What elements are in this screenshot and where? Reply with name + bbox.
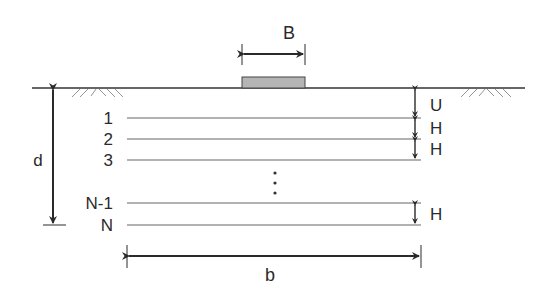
spacing-label-h3: H bbox=[430, 205, 442, 224]
ground-hatch-left bbox=[72, 89, 123, 97]
soil-layer-diagram: B 1 2 3 N-1 N d U H H H b bbox=[0, 0, 556, 291]
ellipsis-dots bbox=[273, 171, 276, 194]
width-label: b bbox=[265, 265, 275, 285]
spacing-label-h2: H bbox=[430, 140, 442, 159]
layer-label-n: N bbox=[101, 216, 113, 235]
ground-hatch-right bbox=[461, 89, 511, 97]
layer-label-2: 2 bbox=[104, 130, 113, 149]
spacing-label-u: U bbox=[430, 96, 442, 115]
depth-label: d bbox=[33, 151, 42, 170]
footing-width-label: B bbox=[283, 23, 295, 43]
footing-width-dimension bbox=[242, 44, 305, 65]
layer-label-n-1: N-1 bbox=[86, 194, 113, 213]
footing bbox=[242, 77, 305, 88]
layer-label-3: 3 bbox=[104, 151, 113, 170]
depth-dimension bbox=[43, 90, 66, 225]
layer-lines bbox=[127, 118, 421, 225]
layer-label-1: 1 bbox=[104, 109, 113, 128]
spacing-label-h1: H bbox=[430, 119, 442, 138]
